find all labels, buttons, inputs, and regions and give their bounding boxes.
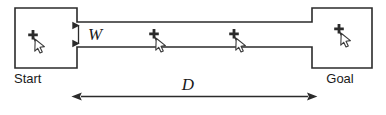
cursor-start <box>28 30 44 53</box>
figure-canvas: W D Start Goal <box>0 0 386 115</box>
distance-dimension: D <box>81 75 308 97</box>
goal-label: Goal <box>326 71 354 86</box>
steering-track-outline <box>15 8 372 68</box>
cursor-mid-1 <box>149 29 165 52</box>
width-dimension: W <box>79 25 105 44</box>
width-symbol-label: W <box>88 25 104 44</box>
steering-task-figure: W D Start Goal <box>0 0 386 115</box>
cursor-goal <box>334 24 350 47</box>
distance-symbol-label: D <box>181 75 195 94</box>
cursor-mid-2 <box>229 29 245 52</box>
start-label: Start <box>14 71 42 86</box>
